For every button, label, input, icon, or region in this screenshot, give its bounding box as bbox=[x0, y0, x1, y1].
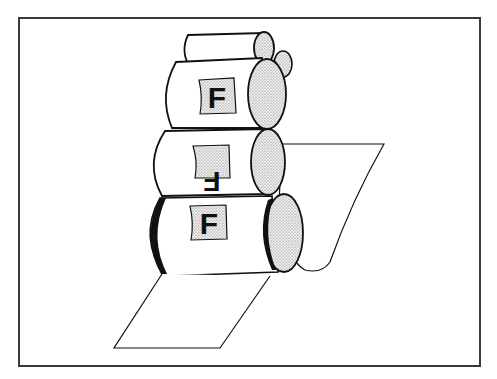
plate-letter: F bbox=[208, 81, 226, 114]
plate-image-f: F bbox=[199, 78, 236, 114]
blanket-letter: F bbox=[203, 166, 220, 197]
blanket-cylinder: F bbox=[154, 129, 285, 197]
plate-cylinder: F bbox=[166, 58, 286, 129]
printing-press-diagram: F F F bbox=[0, 0, 497, 379]
paper-web-outgoing bbox=[114, 274, 270, 348]
printed-letter: F bbox=[200, 207, 218, 240]
impression-cylinder: F bbox=[150, 194, 303, 276]
printed-image-f: F bbox=[190, 205, 227, 240]
